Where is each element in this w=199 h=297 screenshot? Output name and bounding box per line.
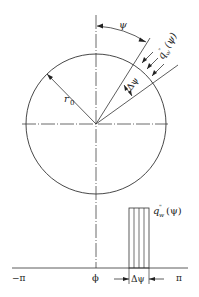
flux-label-bottom: q w " (ψ): [153, 203, 182, 218]
svg-text:0: 0: [70, 99, 74, 107]
delta-bottom-arrowhead-right: [149, 277, 155, 281]
axis-origin-label: ϕ: [92, 272, 99, 283]
delta-bottom-label: Δψ: [131, 274, 145, 284]
diagram-canvas: ψ Δψ q w " (ψ) r 0 −π ϕ π Δψ q w: [0, 0, 199, 297]
svg-text:": ": [159, 203, 162, 210]
radius-label: r 0: [64, 93, 74, 107]
svg-text:(ψ): (ψ): [166, 205, 182, 216]
delta-bottom-arrowhead-left: [123, 277, 129, 281]
segment-ray-1: [96, 38, 150, 124]
psi-label: ψ: [119, 19, 127, 30]
psi-arrow-left: [97, 24, 103, 29]
heat-flux-diagram: ψ Δψ q w " (ψ) r 0 −π ϕ π Δψ q w: [0, 0, 199, 297]
axis-min-label: −π: [12, 273, 26, 283]
flux-arrowhead-1: [142, 57, 147, 63]
flux-arrowhead-3: [152, 70, 157, 76]
flux-label-top: q w " (ψ): [153, 30, 180, 62]
flux-arrowhead-2: [147, 63, 152, 69]
svg-text:w: w: [159, 211, 165, 218]
svg-text:(ψ): (ψ): [162, 31, 179, 50]
axis-max-label: π: [176, 273, 182, 283]
